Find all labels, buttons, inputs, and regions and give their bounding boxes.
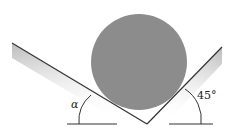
45-degree-label: 45° xyxy=(197,89,217,102)
diagram: α 45° xyxy=(0,0,236,134)
diagram-canvas xyxy=(0,0,236,134)
cylinder xyxy=(91,14,187,110)
alpha-label: α xyxy=(71,98,78,111)
